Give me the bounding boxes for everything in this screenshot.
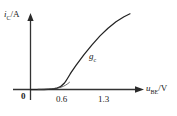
x-axis-arrow-icon bbox=[135, 86, 144, 92]
characteristic-curve bbox=[31, 14, 131, 90]
y-axis-arrow-icon bbox=[27, 13, 33, 21]
x-tick-label-0-6: 0.6 bbox=[56, 95, 67, 104]
y-axis-label: iC/A bbox=[4, 10, 20, 21]
origin-label: 0 bbox=[21, 92, 26, 101]
curve-label: gc bbox=[89, 52, 96, 63]
y-axis-unit: /A bbox=[11, 9, 20, 19]
x-axis-label: uBE/V bbox=[146, 84, 167, 95]
chart-figure: iC/A uBE/V 0 0.6 1.3 gc bbox=[0, 0, 177, 116]
x-axis-unit: /V bbox=[158, 83, 167, 93]
curve-label-subscript: c bbox=[94, 57, 97, 63]
x-tick-label-1-3: 1.3 bbox=[98, 95, 109, 104]
